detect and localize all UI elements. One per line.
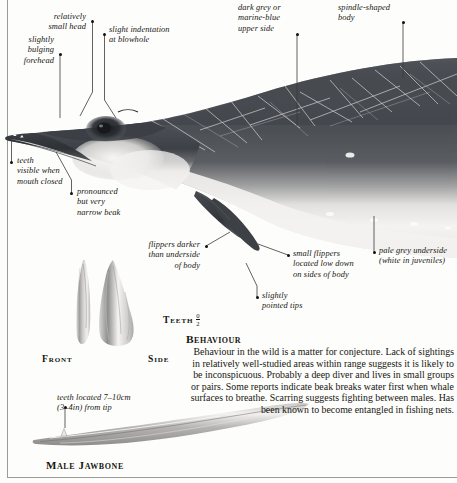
callout-dot-pronounced-narrow-beak (70, 192, 73, 195)
behaviour-section: Behaviour Behaviour in the wild is a mat… (186, 333, 454, 416)
callout-dot-relatively-small-head (91, 20, 94, 23)
teeth-formula-numerator: 0 (196, 312, 199, 319)
callout-label-teeth-visible: teeth visible when mouth closed (17, 156, 97, 187)
callout-label-pronounced-narrow-beak: pronounced but very narrow beak (77, 187, 157, 218)
callout-label-slight-indentation: slight indentation at blowhole (109, 25, 229, 46)
callout-dot-slightly-pointed-tips (256, 296, 259, 299)
callout-label-small-flippers: small flippers located low down on sides… (293, 249, 383, 280)
behaviour-heading: Behaviour (186, 333, 454, 345)
callout-dot-small-flippers (287, 254, 290, 257)
callout-label-pale-grey-underside: pale grey underside (white in juveniles) (379, 246, 457, 267)
callout-label-relatively-small-head: relatively small head (0, 12, 86, 33)
callout-dot-flippers-darker (205, 245, 208, 248)
callout-dot-slightly-bulging-forehead (59, 53, 62, 56)
figure-caption-male-jawbone: Male Jawbone (46, 459, 124, 471)
callout-dot-teeth-visible (10, 161, 13, 164)
plate-page: relatively small head slight indentation… (0, 0, 457, 483)
callout-label-slightly-bulging-forehead: slightly bulging forehead (0, 35, 54, 66)
callout-label-flippers-darker: flippers darker than underside of body (126, 240, 200, 271)
teeth-dental-formula: Teeth 0 2 (163, 312, 200, 327)
teeth-formula-denominator: 2 (196, 319, 199, 327)
callout-label-teeth-located: teeth located 7–10cm (3–4in) from tip (57, 393, 187, 414)
callout-label-slightly-pointed-tips: slightly pointed tips (262, 291, 332, 312)
callout-label-spindle-shaped-body: spindle-shaped body (338, 3, 406, 24)
figure-caption-side: Side (148, 353, 169, 364)
behaviour-body-text: Behaviour in the wild is a matter for co… (186, 346, 454, 416)
callout-dot-slight-indentation (103, 33, 106, 36)
teeth-formula-label: Teeth (163, 314, 193, 325)
teeth-formula-fraction: 0 2 (196, 312, 199, 327)
figure-caption-front: Front (42, 353, 73, 364)
callout-label-dark-grey-upper-side: dark grey or marine-blue upper side (238, 3, 308, 34)
